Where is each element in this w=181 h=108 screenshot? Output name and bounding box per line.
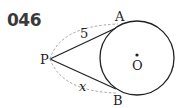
label-pb-length: x	[79, 79, 87, 94]
label-pa-length: 5	[80, 26, 88, 41]
label-p: P	[40, 52, 49, 67]
tangent-diagram: P A B O 5 x	[0, 0, 181, 108]
label-a: A	[114, 9, 125, 24]
label-o: O	[132, 58, 143, 73]
label-b: B	[113, 93, 123, 108]
center-point-o	[135, 53, 138, 56]
